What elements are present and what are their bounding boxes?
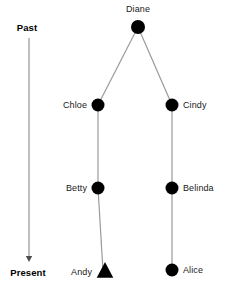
node-diane-circle[interactable]	[131, 20, 145, 34]
node-betty-circle[interactable]	[92, 182, 105, 195]
node-label-belinda: Belinda	[183, 184, 214, 193]
node-chloe-circle[interactable]	[92, 99, 105, 112]
node-label-cindy: Cindy	[183, 101, 207, 110]
edge-diane-chloe	[98, 27, 138, 105]
timeline-arrowhead-icon	[26, 256, 32, 262]
node-label-alice: Alice	[183, 266, 203, 275]
diagram-canvas	[0, 0, 231, 286]
node-alice-circle[interactable]	[166, 264, 179, 277]
node-label-betty: Betty	[66, 184, 87, 193]
nodes-group	[92, 20, 179, 278]
axis-label-past: Past	[17, 23, 37, 33]
node-label-diane: Diane	[126, 5, 150, 14]
node-andy-triangle[interactable]	[97, 262, 114, 278]
timeline-axis-group	[26, 38, 32, 262]
node-belinda-circle[interactable]	[166, 182, 179, 195]
node-label-chloe: Chloe	[63, 101, 87, 110]
edges-group	[98, 27, 172, 271]
edge-diane-cindy	[138, 27, 172, 105]
edge-betty-andy	[98, 188, 103, 271]
genealogy-timeline-figure: Past Present DianeChloeCindyBettyBelinda…	[0, 0, 231, 286]
node-cindy-circle[interactable]	[166, 99, 179, 112]
axis-label-present: Present	[10, 268, 46, 278]
node-label-andy: Andy	[71, 268, 92, 277]
